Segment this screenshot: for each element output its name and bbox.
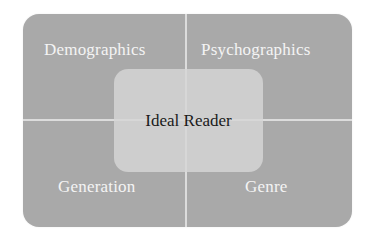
quadrant-label-demographics: Demographics [44,40,146,60]
center-label: Ideal Reader [145,111,231,131]
quadrant-label-psychographics: Psychographics [201,40,311,60]
quadrant-label-generation: Generation [58,177,136,197]
quadrant-diagram: Demographics Psychographics Generation G… [23,14,352,227]
center-box-ideal-reader: Ideal Reader [114,69,263,172]
quadrant-label-genre: Genre [245,177,288,197]
